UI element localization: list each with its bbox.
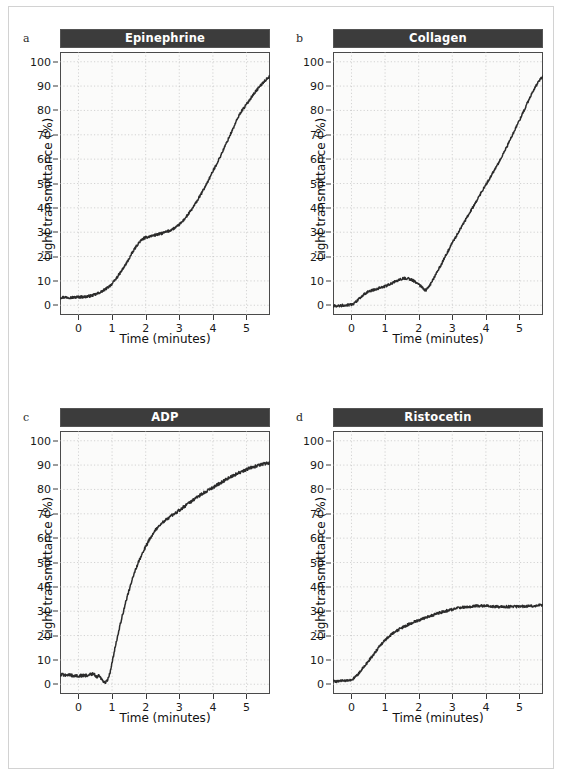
plot-area (60, 52, 270, 315)
x-tick-mark (452, 694, 453, 699)
x-tick-mark (78, 694, 79, 699)
y-tick-mark (53, 440, 58, 441)
x-tick-mark (419, 315, 420, 320)
panel-collagen: b Collagen 0102030405060708090100 Light … (284, 11, 557, 392)
y-axis-title: Light transmittance (%) (315, 468, 327, 668)
plot-area (333, 52, 543, 315)
y-axis-title: Light transmittance (%) (42, 89, 54, 289)
x-tick-mark (351, 315, 352, 320)
plot-area (333, 431, 543, 694)
panel-title-bar: Ristocetin (333, 408, 543, 427)
x-tick-mark (213, 694, 214, 699)
panel-title-bar: Collagen (333, 29, 543, 48)
x-axis-title: Time (minutes) (60, 333, 270, 345)
x-tick-mark (452, 315, 453, 320)
x-tick-mark (385, 315, 386, 320)
panel-adp: c ADP 0102030405060708090100 Light trans… (11, 390, 284, 771)
panel-epinephrine: a Epinephrine 0102030405060708090100 Lig… (11, 11, 284, 392)
x-tick-mark (519, 315, 520, 320)
y-tick-label: 0 (317, 679, 324, 690)
x-tick-mark (146, 315, 147, 320)
x-tick-mark (246, 315, 247, 320)
y-tick-label: 100 (303, 56, 324, 67)
x-tick-mark (486, 694, 487, 699)
panel-grid: a Epinephrine 0102030405060708090100 Lig… (9, 7, 553, 768)
x-tick-mark (519, 694, 520, 699)
y-tick-mark (326, 61, 331, 62)
x-tick-mark (146, 694, 147, 699)
x-tick-mark (419, 694, 420, 699)
panel-letter: a (23, 33, 30, 44)
x-tick-mark (179, 315, 180, 320)
panel-title: ADP (151, 412, 178, 424)
y-tick-mark (326, 440, 331, 441)
x-axis-title: Time (minutes) (333, 333, 543, 345)
y-tick-label: 100 (30, 435, 51, 446)
y-tick-mark (326, 684, 331, 685)
x-tick-mark (112, 694, 113, 699)
y-tick-label: 0 (317, 300, 324, 311)
y-tick-mark (53, 684, 58, 685)
figure-frame: a Epinephrine 0102030405060708090100 Lig… (8, 6, 554, 769)
x-tick-mark (486, 315, 487, 320)
x-tick-mark (179, 694, 180, 699)
x-tick-mark (246, 694, 247, 699)
panel-letter: d (296, 412, 303, 423)
plot-svg (60, 52, 270, 315)
x-tick-mark (385, 694, 386, 699)
y-tick-mark (53, 465, 58, 466)
y-tick-mark (53, 61, 58, 62)
panel-letter: b (296, 33, 303, 44)
plot-area (60, 431, 270, 694)
x-tick-mark (213, 315, 214, 320)
panel-title: Epinephrine (125, 33, 205, 45)
y-tick-mark (326, 86, 331, 87)
y-tick-label: 100 (303, 435, 324, 446)
panel-title-bar: ADP (60, 408, 270, 427)
y-tick-label: 100 (30, 56, 51, 67)
panel-letter: c (23, 412, 29, 423)
panel-title: Ristocetin (404, 412, 471, 424)
y-axis-title: Light transmittance (%) (315, 89, 327, 289)
panel-ristocetin: d Ristocetin 0102030405060708090100 Ligh… (284, 390, 557, 771)
y-tick-mark (53, 305, 58, 306)
y-tick-mark (326, 305, 331, 306)
y-tick-mark (326, 465, 331, 466)
y-tick-mark (53, 86, 58, 87)
x-axis-title: Time (minutes) (60, 712, 270, 724)
plot-svg (333, 52, 543, 315)
y-tick-label: 0 (44, 300, 51, 311)
y-axis-title: Light transmittance (%) (42, 468, 54, 668)
x-tick-mark (78, 315, 79, 320)
plot-svg (60, 431, 270, 694)
y-tick-label: 0 (44, 679, 51, 690)
x-tick-mark (351, 694, 352, 699)
panel-title: Collagen (409, 33, 467, 45)
x-axis-title: Time (minutes) (333, 712, 543, 724)
x-tick-mark (112, 315, 113, 320)
plot-svg (333, 431, 543, 694)
panel-title-bar: Epinephrine (60, 29, 270, 48)
